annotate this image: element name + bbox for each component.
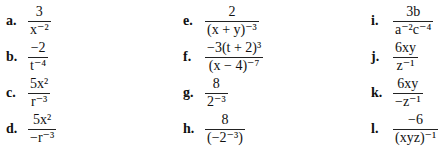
numerator: −6 [406,113,425,128]
denominator: (x + y)⁻³ [205,23,259,38]
fraction: 3b a⁻²c⁻⁴ [393,5,433,37]
denominator: 2⁻³ [205,95,228,110]
problem-label: h. [183,121,205,137]
numerator: 6xy [395,77,420,92]
problem-label: k. [371,85,393,101]
problem-label: g. [183,85,205,101]
fraction: 5x² −r⁻³ [28,113,56,145]
fraction: −6 (xyz)⁻¹ [393,113,438,145]
fraction: 3 x⁻² [28,5,51,37]
problem-label: d. [6,121,28,137]
problem-label: f. [183,49,205,65]
problem-label: e. [183,13,205,29]
problem-h: h. 8 (−2⁻³) [183,113,245,145]
numerator: 5x² [31,113,53,128]
fraction: 2 (x + y)⁻³ [205,5,259,37]
fraction: 6xy z⁻¹ [393,41,418,73]
problem-d: d. 5x² −r⁻³ [6,113,56,145]
fraction: 6xy −z⁻¹ [393,77,423,109]
numerator: 2 [226,5,237,20]
problem-i: i. 3b a⁻²c⁻⁴ [371,5,433,37]
problem-label: b. [6,49,28,65]
denominator: a⁻²c⁻⁴ [393,23,433,38]
fraction: 8 (−2⁻³) [205,113,245,145]
numerator: 8 [219,113,230,128]
denominator: −r⁻³ [28,131,56,146]
problem-a: a. 3 x⁻² [6,5,51,37]
problem-label: a. [6,13,28,29]
denominator: (xyz)⁻¹ [393,131,438,146]
problem-label: c. [6,85,28,101]
problem-label: j. [371,49,393,65]
denominator: r⁻³ [29,95,49,110]
numerator: 5x² [28,77,50,92]
denominator: (x − 4)⁻⁷ [207,59,262,74]
fraction: 5x² r⁻³ [28,77,50,109]
denominator: −z⁻¹ [393,95,423,110]
problem-c: c. 5x² r⁻³ [6,77,50,109]
problem-f: f. −3(t + 2)³ (x − 4)⁻⁷ [183,41,263,73]
numerator: −2 [29,41,48,56]
denominator: t⁻⁴ [28,59,48,74]
denominator: x⁻² [28,23,51,38]
numerator: 3b [404,5,422,20]
problem-j: j. 6xy z⁻¹ [371,41,418,73]
problem-g: g. 8 2⁻³ [183,77,228,109]
fraction: −2 t⁻⁴ [28,41,48,73]
denominator: (−2⁻³) [205,131,245,146]
denominator: z⁻¹ [395,59,417,74]
problem-label: i. [371,13,393,29]
problem-k: k. 6xy −z⁻¹ [371,77,423,109]
numerator: 8 [211,77,222,92]
fraction: −3(t + 2)³ (x − 4)⁻⁷ [205,41,263,73]
problem-b: b. −2 t⁻⁴ [6,41,48,73]
numerator: −3(t + 2)³ [205,41,263,56]
problem-label: l. [371,121,393,137]
numerator: 6xy [393,41,418,56]
numerator: 3 [34,5,45,20]
fraction: 8 2⁻³ [205,77,228,109]
problem-e: e. 2 (x + y)⁻³ [183,5,259,37]
problem-l: l. −6 (xyz)⁻¹ [371,113,438,145]
